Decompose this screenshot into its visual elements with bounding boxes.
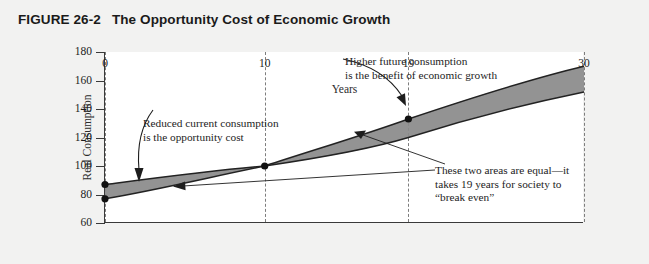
y-tick-140: 140 [96, 109, 105, 110]
figure-title: FIGURE 26-2The Opportunity Cost of Econo… [18, 12, 390, 27]
marker-year0-original [101, 181, 108, 188]
gridline-x-30 [584, 52, 585, 222]
y-tick-label-100: 100 [75, 159, 92, 171]
y-tick-120: 120 [96, 138, 105, 139]
y-tick-label-160: 160 [75, 74, 92, 86]
figure-container: FIGURE 26-2The Opportunity Cost of Econo… [0, 0, 649, 264]
benefit-arrowhead [397, 93, 407, 106]
y-tick-label-60: 60 [81, 216, 93, 228]
marker-year0-reduced [101, 195, 108, 202]
y-tick-label-80: 80 [81, 188, 93, 200]
y-tick-label-140: 140 [75, 102, 92, 114]
y-tick-160: 160 [96, 81, 105, 82]
y-tick-label-120: 120 [75, 131, 92, 143]
annotation-opportunity-cost: Reduced current consumption is the oppor… [143, 117, 279, 144]
y-tick-80: 80 [96, 195, 105, 196]
annotation-break-even: These two areas are equal—it takes 19 ye… [435, 164, 569, 205]
marker-year10-crossing [261, 162, 268, 169]
y-tick-180: 180 [96, 52, 105, 53]
marker-year19-breakeven [405, 115, 412, 122]
figure-caption: The Opportunity Cost of Economic Growth [112, 12, 390, 27]
figure-number: FIGURE 26-2 [18, 12, 101, 27]
y-tick-label-180: 180 [75, 45, 92, 57]
y-tick-100: 100 [96, 166, 105, 167]
annotation-benefit: Higher future consumption is the benefit… [345, 55, 497, 82]
y-tick-60: 60 [96, 223, 105, 224]
